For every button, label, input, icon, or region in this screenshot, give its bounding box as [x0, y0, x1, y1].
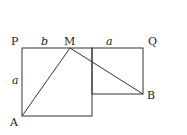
label-M: M	[64, 35, 75, 48]
label-Q: Q	[148, 35, 157, 48]
geometry-diagram: P M Q A B b a a	[0, 0, 187, 135]
label-PM-length: b	[41, 35, 48, 48]
segment-MB	[70, 48, 143, 94]
label-B: B	[147, 89, 155, 102]
small-square	[92, 48, 143, 94]
label-PA-length: a	[12, 74, 19, 87]
large-square	[22, 48, 92, 116]
label-A: A	[9, 116, 19, 129]
label-P: P	[11, 35, 19, 48]
label-MQ-length: a	[106, 35, 113, 48]
segment-MA	[22, 48, 70, 116]
